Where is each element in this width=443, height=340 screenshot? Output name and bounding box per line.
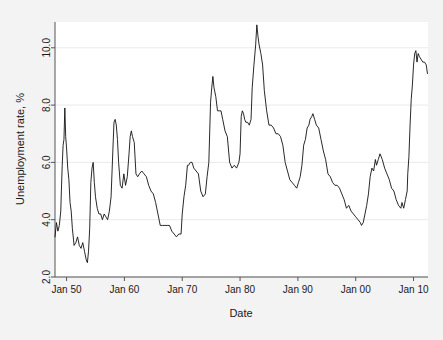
- x-tick-label: Jan 80: [225, 284, 255, 295]
- y-tick-label: 8.0: [41, 98, 52, 112]
- x-tick-label: Jan 70: [167, 284, 197, 295]
- x-axis-title: Date: [229, 307, 252, 319]
- x-tick-label: Jan 60: [109, 284, 139, 295]
- plot-area-background: [55, 22, 428, 277]
- chart-figure: 2.04.06.08.010.0 Jan 50Jan 60Jan 70Jan 8…: [0, 0, 443, 340]
- y-tick-label: 2.0: [41, 270, 52, 284]
- y-tick-label: 6.0: [41, 155, 52, 169]
- unemployment-rate-line-chart: 2.04.06.08.010.0 Jan 50Jan 60Jan 70Jan 8…: [0, 0, 443, 340]
- y-tick-label: 10.0: [41, 38, 52, 58]
- y-axis-title: Unemployment rate, %: [14, 93, 26, 205]
- x-tick-label: Jan 90: [283, 284, 313, 295]
- x-tick-label: Jan 50: [52, 284, 82, 295]
- y-tick-label: 4.0: [41, 212, 52, 226]
- x-tick-label: Jan 00: [341, 284, 371, 295]
- x-tick-label: Jan 10: [399, 284, 429, 295]
